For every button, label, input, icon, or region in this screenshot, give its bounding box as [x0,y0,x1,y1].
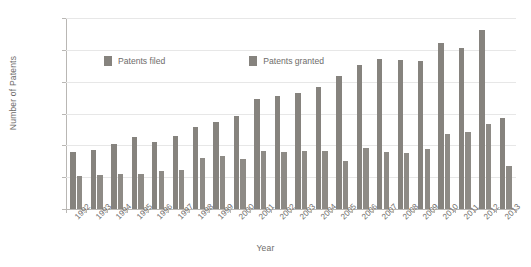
x-tick-mark [332,209,333,213]
y-axis-title: Number of Patents [8,33,18,153]
x-tick-mark [107,209,108,213]
x-tick-mark [475,209,476,213]
bar-patents-filed-2013 [500,118,505,209]
bar-patents-filed-1994 [111,144,116,209]
x-tick-mark [127,209,128,213]
x-tick-mark [86,209,87,213]
bar-patents-filed-2006 [357,65,362,209]
plot-area: 0100,000200,000300,000400,000500,000600,… [66,18,516,209]
y-tick-mark [62,114,66,115]
bar-patents-granted-2001 [261,151,266,209]
bar-patents-filed-1995 [132,137,137,209]
x-tick-mark [66,209,67,213]
x-tick-mark [148,209,149,213]
y-tick-mark [62,82,66,83]
bar-patents-granted-2011 [465,132,470,209]
bar-patents-filed-2009 [418,61,423,209]
bar-patents-granted-1997 [179,170,184,209]
x-tick-mark [230,209,231,213]
x-tick-mark [250,209,251,213]
x-tick-mark [414,209,415,213]
x-tick-mark [189,209,190,213]
bar-patents-filed-1993 [91,150,96,209]
bar-patents-filed-1992 [70,152,75,209]
bar-patents-granted-2004 [322,151,327,209]
bar-patents-granted-1995 [138,174,143,209]
y-tick-mark [62,50,66,51]
bar-patents-filed-1997 [173,136,178,209]
bar-patents-filed-2001 [254,99,259,209]
bar-patents-filed-2000 [234,116,239,209]
bar-patents-granted-2006 [363,148,368,209]
x-tick-mark [496,209,497,213]
x-axis-title: Year [0,243,531,253]
y-tick-mark [62,177,66,178]
x-tick-mark [352,209,353,213]
bar-patents-granted-2005 [343,161,348,209]
bar-patents-filed-2002 [275,96,280,209]
x-tick-mark [271,209,272,213]
x-tick-mark [373,209,374,213]
x-tick-mark [209,209,210,213]
bar-patents-granted-1992 [77,176,82,209]
x-tick-mark [393,209,394,213]
bar-patents-filed-2007 [377,59,382,209]
bar-patents-filed-1996 [152,142,157,209]
bar-patents-granted-1994 [118,174,123,209]
bar-patents-granted-1993 [97,175,102,209]
bar-patents-filed-1998 [193,127,198,209]
bar-patents-granted-1998 [200,158,205,209]
bar-patents-granted-2009 [425,149,430,209]
x-tick-mark [311,209,312,213]
gridline [66,18,516,19]
gridline [66,50,516,51]
bar-patents-granted-2000 [240,159,245,209]
y-tick-mark [62,145,66,146]
bar-patents-granted-2010 [445,134,450,209]
x-tick-mark [168,209,169,213]
bar-patents-filed-2005 [336,76,341,209]
bar-patents-granted-1999 [220,156,225,209]
x-tick-mark [291,209,292,213]
bar-patents-filed-2008 [398,60,403,209]
bar-patents-granted-2012 [486,124,491,209]
bar-patents-filed-2003 [295,93,300,210]
bar-patents-granted-2013 [506,166,511,209]
bar-patents-granted-2002 [281,152,286,209]
x-tick-mark [434,209,435,213]
patents-bar-chart: Number of Patents Year Patents filed Pat… [0,0,531,267]
gridline [66,114,516,115]
x-tick-mark [455,209,456,213]
bar-patents-granted-1996 [159,171,164,209]
y-tick-mark [62,18,66,19]
bar-patents-filed-2012 [479,30,484,209]
bar-patents-granted-2008 [404,153,409,209]
bar-patents-filed-2004 [316,87,321,209]
bar-patents-filed-2010 [438,43,443,209]
bar-patents-granted-2003 [302,151,307,209]
x-tick-mark [516,209,517,213]
gridline [66,82,516,83]
bar-patents-granted-2007 [384,152,389,209]
bar-patents-filed-2011 [459,48,464,209]
bar-patents-filed-1999 [213,122,218,209]
